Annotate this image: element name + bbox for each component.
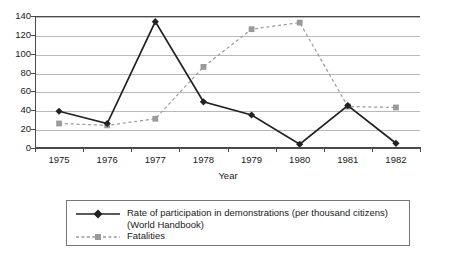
x-axis-title: Year <box>35 170 421 181</box>
x-tick-mark <box>372 147 373 152</box>
x-tick-mark <box>228 147 229 152</box>
legend-label-participation-line1: Rate of participation in demonstrations … <box>127 207 388 219</box>
legend-marker-diamond <box>75 208 121 220</box>
x-tick-label: 1982 <box>374 154 418 165</box>
x-tick-mark <box>179 147 180 152</box>
y-tick-label: 0 <box>5 143 31 153</box>
gridline <box>36 36 420 37</box>
legend-marker-square <box>75 231 121 243</box>
y-tick-label: 40 <box>5 105 31 115</box>
gridline <box>36 17 420 18</box>
y-tick-label: 140 <box>5 11 31 21</box>
y-tick-label: 100 <box>5 49 31 59</box>
y-tick-label: 80 <box>5 68 31 78</box>
x-tick-mark <box>420 147 421 152</box>
x-tick-label: 1981 <box>326 154 370 165</box>
x-tick-label: 1977 <box>133 154 177 165</box>
y-tick-label: 120 <box>5 30 31 40</box>
gridline <box>36 55 420 56</box>
x-tick-mark <box>83 147 84 152</box>
x-tick-label: 1979 <box>230 154 274 165</box>
line-chart: 020406080100120140 197519761977197819791… <box>0 0 455 261</box>
plot-area <box>35 16 420 148</box>
x-tick-mark <box>276 147 277 152</box>
x-tick-label: 1980 <box>278 154 322 165</box>
legend-label-fatalities: Fatalities <box>127 230 165 242</box>
x-tick-label: 1978 <box>181 154 225 165</box>
x-tick-mark <box>35 147 36 152</box>
gridline <box>36 111 420 112</box>
gridline <box>36 130 420 131</box>
y-tick-label: 20 <box>5 124 31 134</box>
gridline <box>36 74 420 75</box>
x-tick-mark <box>324 147 325 152</box>
x-tick-label: 1976 <box>85 154 129 165</box>
x-tick-mark <box>131 147 132 152</box>
x-tick-label: 1975 <box>37 154 81 165</box>
chart-legend: Rate of participation in demonstrations … <box>66 200 410 246</box>
gridline <box>36 92 420 93</box>
y-tick-label: 60 <box>5 86 31 96</box>
